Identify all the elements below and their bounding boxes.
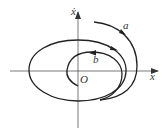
x-axis-label: x — [149, 70, 155, 82]
trajectory-b-label: b — [93, 53, 99, 65]
origin-label: O — [80, 73, 88, 85]
limit-cycle-arrow-icon — [110, 46, 118, 51]
phase-plane-diagram: ẋ x O a b — [0, 0, 168, 134]
trajectory-a-curve — [94, 22, 137, 100]
y-axis-label: ẋ — [70, 5, 76, 17]
trajectory-a-label: a — [123, 19, 129, 31]
limit-cycle-curve — [29, 40, 126, 101]
